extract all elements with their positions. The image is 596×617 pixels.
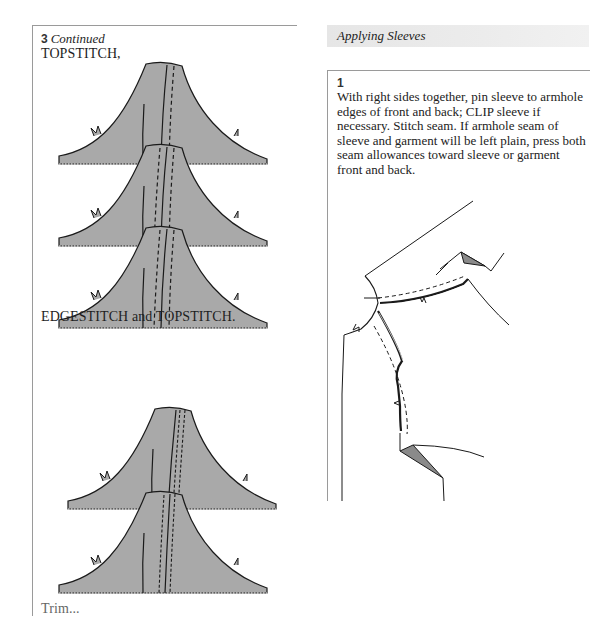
step-3-continued-panel: 3Continued TOPSTITCH,	[32, 25, 297, 616]
caption-edgestitch-topstitch: EDGESTITCH and TOPSTITCH.	[41, 309, 235, 325]
section-title: Applying Sleeves	[337, 28, 425, 44]
sleeve-armhole-diagram	[328, 71, 590, 501]
caption-bottom-partial: Trim...	[41, 601, 80, 617]
section-header-band: Applying Sleeves	[327, 25, 589, 47]
step-1-panel: 1 With right sides together, pin sleeve …	[327, 70, 590, 501]
